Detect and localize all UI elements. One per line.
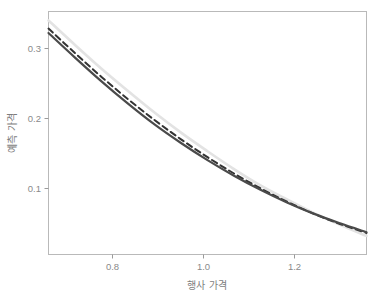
y-tick-label-2: 0.1 [28, 183, 41, 194]
x-axis-title: 행사 가격 [187, 279, 226, 291]
x-tick-label-1: 1.0 [197, 261, 210, 272]
y-tick-label-0: 0.3 [28, 43, 41, 54]
x-tick-label-2: 1.2 [288, 261, 301, 272]
chart-canvas: 0.3 0.2 0.1 0.8 1.0 1.2 행사 가격 예측 가격 [0, 0, 384, 298]
x-tick-label-0: 0.8 [106, 261, 119, 272]
chart-figure: 0.3 0.2 0.1 0.8 1.0 1.2 행사 가격 예측 가격 [0, 0, 384, 298]
y-axis-title: 예측 가격 [6, 113, 18, 152]
y-tick-label-1: 0.2 [28, 113, 41, 124]
